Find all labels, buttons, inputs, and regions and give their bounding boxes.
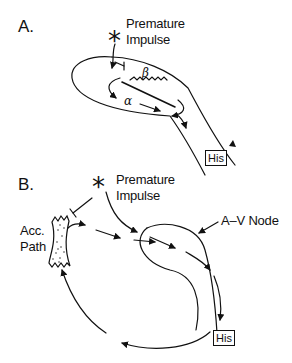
acc-path-label-line1: Acc. bbox=[20, 224, 44, 237]
his-box-b: His bbox=[213, 330, 235, 346]
premature-impulse-star-icon: * bbox=[108, 28, 121, 54]
premature-impulse-label-a-line1: Premature bbox=[126, 17, 185, 30]
premature-impulse-label-a-line2: Impulse bbox=[126, 33, 170, 46]
premature-impulse-label-b-line2: Impulse bbox=[116, 189, 160, 202]
premature-impulse-star-icon: * bbox=[92, 174, 105, 200]
acc-path-shape bbox=[49, 216, 70, 267]
panel-b-label: B. bbox=[18, 176, 34, 193]
av-node-outline-a bbox=[72, 57, 205, 175]
beta-pathway-label: β bbox=[142, 67, 149, 79]
av-node-label: A–V Node bbox=[221, 214, 279, 227]
panel-a-label: A. bbox=[18, 18, 34, 35]
alpha-pathway-label: α bbox=[124, 95, 132, 107]
acc-path-label-line2: Path bbox=[20, 240, 46, 253]
premature-impulse-label-b-line1: Premature bbox=[116, 173, 175, 186]
his-box-a: His bbox=[205, 150, 227, 166]
